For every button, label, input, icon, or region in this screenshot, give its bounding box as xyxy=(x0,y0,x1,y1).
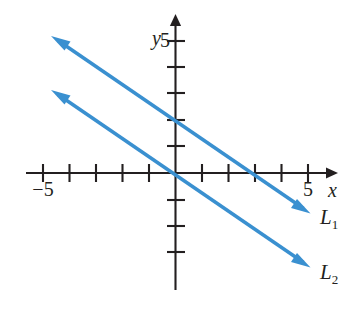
line-L2-label: L2 xyxy=(320,262,338,286)
line-L1-label-subscript: 1 xyxy=(332,217,339,232)
line-L2 xyxy=(51,90,311,268)
line-L1 xyxy=(51,36,311,214)
line-L2-label-base: L xyxy=(320,260,332,284)
line-L2-label-subscript: 2 xyxy=(332,272,339,287)
line-L1-segment xyxy=(58,41,304,209)
y-axis-arrowhead xyxy=(170,14,181,26)
x-tick-label-negative-5: −5 xyxy=(26,179,60,199)
coordinate-plane-svg xyxy=(0,0,358,315)
x-axis-label: x xyxy=(328,180,337,200)
graph-figure: y 5 −5 5 x L1 L2 xyxy=(0,0,358,315)
x-tick-label-5: 5 xyxy=(292,179,324,199)
x-axis xyxy=(26,167,338,178)
line-L1-label: L1 xyxy=(320,207,338,231)
y-axis xyxy=(170,14,181,290)
y-tick-label-5: 5 xyxy=(150,30,170,50)
x-axis-arrowhead xyxy=(326,167,338,178)
line-L1-label-base: L xyxy=(320,205,332,229)
